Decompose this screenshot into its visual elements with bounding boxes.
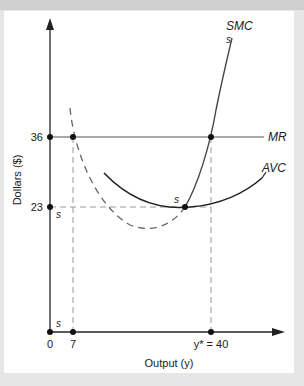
points [47,134,214,335]
x-tick-0: 0 [47,338,53,350]
mr-label: MR [268,130,287,144]
supply-marker-avc-min: s [174,194,179,205]
supply-marker-top: s [226,34,231,45]
point-7-0 [70,329,76,335]
smc-label: SMC [226,19,253,33]
y-axis-arrow-icon [46,18,54,30]
point-0-36 [47,134,53,140]
x-axis-arrow-icon [272,328,285,336]
y-tick-36: 36 [31,131,43,143]
x-axis-title: Output (y) [145,357,194,369]
supply-marker-23: s [56,209,61,220]
x-tick-7: 7 [70,338,76,350]
point-0-23 [47,204,53,210]
point-40-36 [208,134,214,140]
y-axis-title: Dollars ($) [11,155,23,206]
guide-lines [50,137,211,332]
avc-label: AVC [261,161,286,175]
point-origin [47,329,53,335]
point-avc-min [182,204,188,210]
supply-marker-origin: s [56,318,61,329]
x-tick-40: y* = 40 [194,338,229,350]
economics-diagram: SMC s MR AVC s s s 36 23 0 7 y* = 40 Dol… [0,0,304,386]
point-40-0 [208,329,214,335]
smc-curve [185,38,232,207]
smc-dashed-curve [70,108,185,229]
point-7-36 [70,134,76,140]
y-tick-23: 23 [31,201,43,213]
avc-curve [104,173,262,208]
